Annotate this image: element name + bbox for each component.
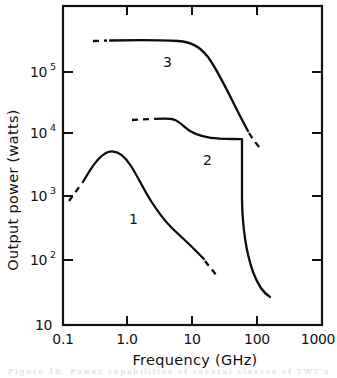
figure-caption: Figure 16. Power capabilities of several… [8,367,330,376]
series-2-dashed-start [132,119,152,120]
x-tick-label-1.0: 1.0 [116,331,137,347]
y-tick-label-1e5-mantissa: 10 [30,64,47,80]
series-2-label: 2 [203,152,212,168]
y-axis-title: Output power (watts) [5,109,21,270]
y-tick-label-1e4-exponent: 4 [50,122,56,133]
x-axis-ticks [127,316,257,325]
series-3-dashed-end [249,133,262,150]
y-tick-label-1e5-exponent: 5 [50,61,56,72]
series-1-dashed-start [69,183,82,201]
series-1-main-line [83,151,204,259]
y-tick-labels: 10 5 10 4 10 3 10 2 10 [30,61,56,333]
y-tick-label-1e3-mantissa: 10 [30,188,47,204]
series-1-dashed-end [205,261,217,276]
power-vs-frequency-chart: 10 5 10 4 10 3 10 2 10 0.1 1.0 10 100 10… [0,0,337,378]
series-3-main-line [110,40,248,131]
series-3-dashed-start [93,41,107,42]
x-tick-labels: 0.1 1.0 10 100 1000 [52,331,335,347]
y-tick-label-1e2-mantissa: 10 [30,252,47,268]
series-3-label: 3 [163,54,172,70]
x-tick-label-100: 100 [244,331,270,347]
plot-frame [63,6,322,325]
x-tick-label-1000: 1000 [301,331,335,347]
y-axis-ticks [63,72,73,260]
y-axis-ticks-right [312,72,322,260]
y-tick-label-1e4-mantissa: 10 [30,125,47,141]
x-axis-title: Frequency (GHz) [132,352,257,368]
series-1-label: 1 [129,211,138,227]
series-2 [132,119,270,297]
y-tick-label-1e3-exponent: 3 [50,185,56,196]
figure-page: 10 5 10 4 10 3 10 2 10 0.1 1.0 10 100 10… [0,0,337,378]
x-axis-ticks-top [127,6,257,15]
y-tick-label-10: 10 [35,317,52,333]
series-1 [69,151,217,276]
series-3 [93,40,262,150]
x-tick-label-0.1: 0.1 [52,331,73,347]
x-tick-label-10: 10 [183,331,200,347]
y-tick-label-1e2-exponent: 2 [50,249,56,260]
